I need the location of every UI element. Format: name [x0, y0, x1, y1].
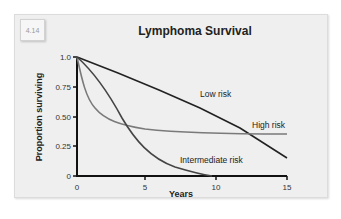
y-tick-label: 0.50	[55, 113, 71, 122]
chart-plot: 1.0 0.75 0.50 0.25 0 0 5 10 15 Years Pro…	[0, 0, 341, 219]
low-risk-curve	[77, 57, 287, 158]
x-tick-label: 0	[75, 183, 80, 192]
y-axis-label: Proportion surviving	[34, 73, 44, 162]
y-tick-label: 0	[67, 172, 72, 181]
intermediate-risk-label: Intermediate risk	[180, 155, 244, 165]
high-risk-label: High risk	[252, 120, 286, 130]
y-tick-label: 0.75	[55, 83, 71, 92]
x-tick-label: 5	[143, 183, 148, 192]
y-tick-label: 0.25	[55, 142, 71, 151]
x-axis-label: Years	[169, 189, 193, 199]
low-risk-label: Low risk	[200, 89, 232, 99]
y-tick-label: 1.0	[60, 53, 72, 62]
x-tick-label: 10	[212, 183, 221, 192]
x-tick-label: 15	[283, 183, 292, 192]
